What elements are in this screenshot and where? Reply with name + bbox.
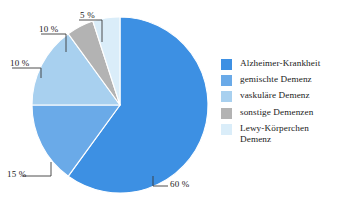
legend-label: Alzheimer-Krankheit <box>240 58 320 69</box>
pie-chart-figure: 60 % 15 % 10 % 10 % 5 % Alzheimer-Krankh… <box>0 0 343 201</box>
value-label-alzheimer-krankheit: 60 % <box>170 179 190 189</box>
legend-swatch-icon <box>221 108 232 119</box>
value-label-vaskulaere-demenz: 10 % <box>10 58 30 68</box>
chart-legend: Alzheimer-Krankheit gemischte Demenz vas… <box>221 58 343 149</box>
legend-swatch-icon <box>221 91 232 102</box>
legend-item-alzheimer-krankheit[interactable]: Alzheimer-Krankheit <box>221 58 343 70</box>
value-label-lewy-koerperchen-demenz: 5 % <box>80 10 95 20</box>
legend-item-vaskulaere-demenz[interactable]: vaskuläre Demenz <box>221 90 343 102</box>
legend-item-lewy-koerperchen-demenz[interactable]: Lewy-Körperchen Demenz <box>221 123 343 145</box>
legend-label: Lewy-Körperchen Demenz <box>240 123 328 145</box>
legend-item-gemischte-demenz[interactable]: gemischte Demenz <box>221 74 343 86</box>
legend-swatch-icon <box>221 124 232 135</box>
legend-label: sonstige Demenzen <box>240 107 313 118</box>
legend-label: vaskuläre Demenz <box>240 90 310 101</box>
legend-label: gemischte Demenz <box>240 74 312 85</box>
legend-item-sonstige-demenzen[interactable]: sonstige Demenzen <box>221 107 343 119</box>
value-label-sonstige-demenzen: 10 % <box>39 24 59 34</box>
pie-slices <box>32 17 208 193</box>
legend-swatch-icon <box>221 75 232 86</box>
value-label-gemischte-demenz: 15 % <box>7 169 27 179</box>
legend-swatch-icon <box>221 59 232 70</box>
